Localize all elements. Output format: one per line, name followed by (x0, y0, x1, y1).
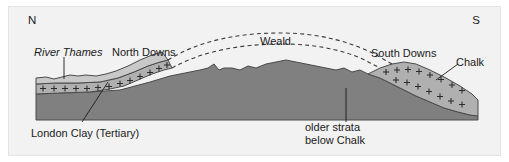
leader-chalk (436, 64, 458, 80)
label-london-clay: London Clay (Tertiary) (31, 127, 139, 139)
label-chalk: Chalk (456, 56, 485, 68)
compass-south-label: S (472, 14, 480, 26)
compass-north-label: N (28, 14, 36, 26)
label-north-downs: North Downs (112, 46, 176, 58)
label-south-downs: South Downs (371, 47, 437, 59)
label-river-thames: River Thames (34, 46, 103, 58)
label-weald: Weald (260, 35, 291, 47)
label-older-strata-line1: older strata (305, 121, 361, 133)
cross-section-drawing: N S River Thames North Downs Weald South… (0, 0, 509, 162)
label-older-strata-line2: below Chalk (305, 134, 365, 146)
geological-cross-section-figure: N S River Thames North Downs Weald South… (0, 0, 509, 162)
